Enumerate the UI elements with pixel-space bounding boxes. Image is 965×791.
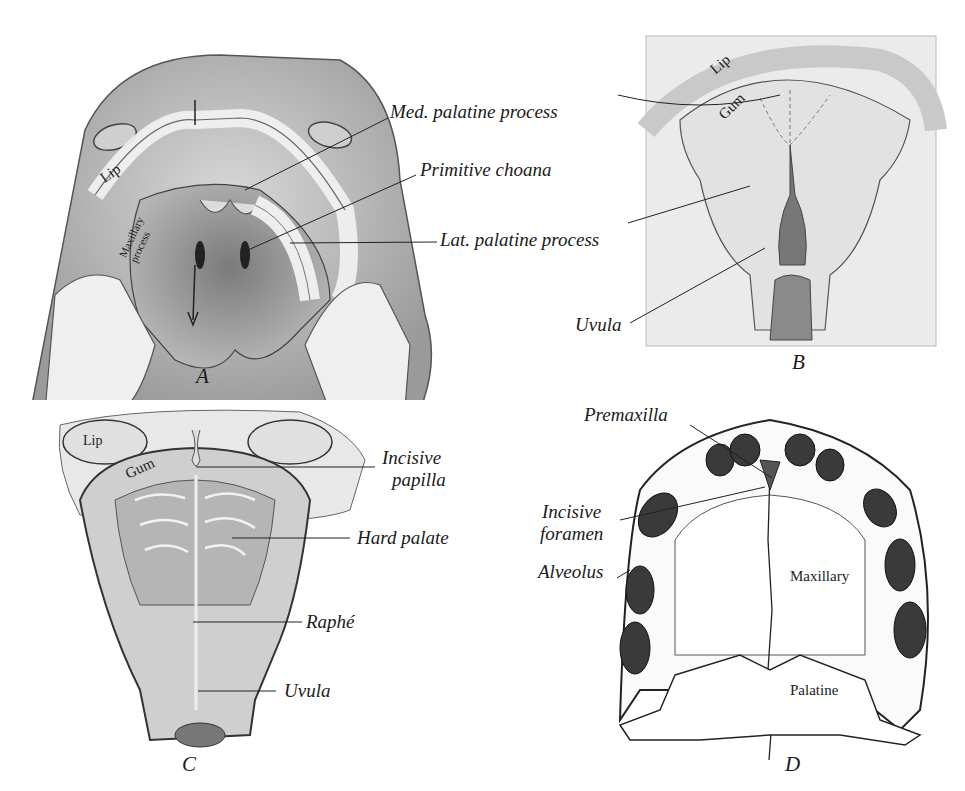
panel-letter-a: A — [196, 364, 209, 389]
label-premaxilla: Premaxilla — [584, 405, 668, 425]
panel-d: Premaxilla Incisive foramen Alveolus Max… — [480, 390, 965, 791]
panel-letter-b: B — [792, 350, 805, 375]
label-uvula-b: Uvula — [575, 315, 621, 335]
panel-letter-d: D — [785, 752, 800, 777]
label-palatine-d: Palatine — [790, 682, 838, 699]
label-med-palatine-process: Med. palatine process — [390, 102, 558, 122]
panel-letter-c: C — [182, 752, 196, 777]
panel-b-drawing — [580, 20, 965, 400]
label-incisive-papilla-line1: Incisive — [382, 448, 441, 468]
panel-a: Med. palatine process Primitive choana L… — [0, 0, 620, 400]
panel-c: Lip Gum Incisive papilla Hard palate Rap… — [0, 390, 480, 791]
label-incisive-foramen-line2: foramen — [540, 524, 603, 544]
panel-b: Lip Gum Uvula B — [580, 20, 965, 400]
label-maxillary-d: Maxillary — [790, 568, 849, 585]
label-primitive-choana: Primitive choana — [420, 160, 551, 180]
label-raphe: Raphé — [306, 612, 355, 632]
label-lip-c: Lip — [83, 433, 102, 449]
panel-d-drawing — [480, 390, 965, 791]
label-uvula-c: Uvula — [284, 681, 330, 701]
label-incisive-papilla-line2: papilla — [392, 470, 446, 490]
label-hard-palate: Hard palate — [357, 528, 449, 548]
label-incisive-foramen-line1: Incisive — [542, 502, 601, 522]
panel-a-drawing — [0, 0, 620, 400]
label-alveolus: Alveolus — [538, 562, 603, 582]
label-lat-palatine-process: Lat. palatine process — [440, 230, 599, 250]
